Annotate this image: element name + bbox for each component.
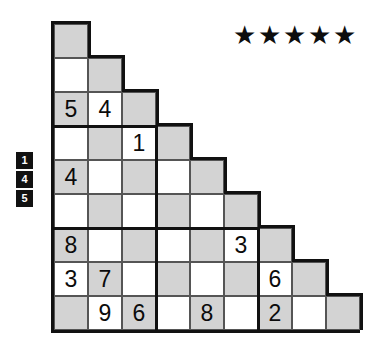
grid-step-right [360, 293, 363, 330]
grid-cell[interactable] [54, 194, 88, 228]
grid-cell[interactable]: 3 [54, 262, 88, 296]
grid-cell[interactable] [190, 160, 224, 194]
grid-cell[interactable] [156, 296, 190, 330]
grid-box-divider-horizontal [54, 125, 156, 128]
grid-cell[interactable] [122, 92, 156, 126]
grid-cell[interactable] [54, 58, 88, 92]
clue-badge-list: 145 [16, 152, 33, 207]
grid-cell[interactable] [258, 228, 292, 262]
grid-cell[interactable]: 7 [88, 262, 122, 296]
grid-step-top [258, 225, 295, 228]
grid-step-top [51, 21, 91, 24]
grid-cell[interactable] [88, 58, 122, 92]
grid-cell[interactable] [224, 194, 258, 228]
clue-badge: 4 [16, 171, 33, 188]
grid-cell[interactable]: 3 [224, 228, 258, 262]
grid-box-divider-horizontal [54, 227, 258, 230]
grid-cell[interactable] [122, 194, 156, 228]
grid-step-right [190, 123, 193, 160]
grid-step-right [258, 191, 261, 228]
grid-cell[interactable] [224, 262, 258, 296]
grid-cell[interactable] [190, 228, 224, 262]
grid-cell[interactable] [190, 194, 224, 228]
grid-step-top [88, 55, 125, 58]
grid-cell[interactable] [292, 296, 326, 330]
clue-badge: 1 [16, 152, 33, 169]
grid-cell[interactable] [88, 228, 122, 262]
clue-badge: 5 [16, 190, 33, 207]
grid-cell[interactable]: 4 [88, 92, 122, 126]
grid-step-right [156, 89, 159, 126]
grid-cell[interactable] [88, 126, 122, 160]
grid-box-divider-vertical [257, 228, 260, 330]
grid-cell[interactable]: 6 [122, 296, 156, 330]
grid-cell[interactable] [156, 262, 190, 296]
grid-cell[interactable]: 9 [88, 296, 122, 330]
grid-cell[interactable] [54, 296, 88, 330]
grid-cell[interactable] [122, 160, 156, 194]
grid-step-top [326, 293, 363, 296]
grid-cell[interactable] [292, 262, 326, 296]
grid-cell[interactable] [156, 228, 190, 262]
grid-cell[interactable] [122, 228, 156, 262]
grid-step-top [224, 191, 261, 194]
grid-step-top [190, 157, 227, 160]
grid-cell[interactable]: 8 [54, 228, 88, 262]
puzzle-grid[interactable]: 5414833769682 [54, 24, 360, 330]
grid-cell[interactable] [224, 296, 258, 330]
grid-cell[interactable] [156, 160, 190, 194]
grid-step-top [122, 89, 159, 92]
grid-step-right [292, 225, 295, 262]
grid-outer-left [51, 21, 54, 333]
grid-cell[interactable] [54, 24, 88, 58]
grid-cell[interactable] [88, 194, 122, 228]
grid-cell[interactable]: 6 [258, 262, 292, 296]
grid-cell[interactable] [190, 262, 224, 296]
grid-cell[interactable] [122, 262, 156, 296]
grid-cell[interactable]: 5 [54, 92, 88, 126]
grid-cell[interactable]: 1 [122, 126, 156, 160]
grid-step-right [224, 157, 227, 194]
grid-cell[interactable] [326, 296, 360, 330]
grid-cell[interactable] [88, 160, 122, 194]
grid-cell[interactable] [54, 126, 88, 160]
grid-cell[interactable]: 2 [258, 296, 292, 330]
grid-outer-bottom [51, 330, 360, 333]
puzzle-root: ★★★★★ 145 5414833769682 [0, 0, 378, 361]
grid-step-top [292, 259, 329, 262]
grid-step-right [88, 21, 91, 58]
grid-cell[interactable] [156, 194, 190, 228]
grid-step-right [122, 55, 125, 92]
grid-step-top [156, 123, 193, 126]
grid-cell[interactable]: 8 [190, 296, 224, 330]
grid-cell[interactable] [156, 126, 190, 160]
grid-cell[interactable]: 4 [54, 160, 88, 194]
grid-step-right [326, 259, 329, 296]
